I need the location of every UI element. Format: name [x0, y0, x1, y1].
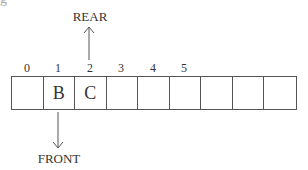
queue-cell-1: B — [44, 77, 76, 109]
front-label: FRONT — [34, 151, 84, 167]
front-arrow-icon — [53, 112, 63, 148]
index-label-0: 0 — [11, 61, 43, 76]
queue-cell-6 — [201, 77, 233, 109]
index-label-1: 1 — [42, 61, 74, 76]
rear-arrow-icon — [84, 27, 94, 60]
queue-cell-8 — [264, 77, 296, 109]
queue-array: B C — [11, 76, 297, 110]
queue-cell-0 — [12, 77, 44, 109]
queue-cell-3 — [107, 77, 139, 109]
queue-cell-7 — [233, 77, 265, 109]
index-label-3: 3 — [105, 61, 137, 76]
index-label-2: 2 — [74, 61, 106, 76]
queue-cell-2: C — [75, 77, 107, 109]
index-label-5: 5 — [168, 61, 200, 76]
queue-cell-4 — [138, 77, 170, 109]
queue-cell-5 — [170, 77, 202, 109]
index-label-4: 4 — [137, 61, 169, 76]
